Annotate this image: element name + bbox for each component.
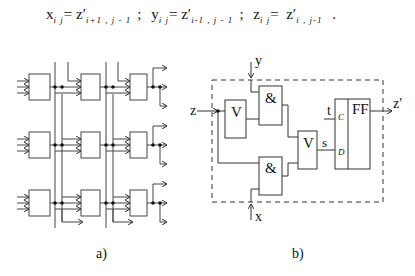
input-z-label: z — [190, 103, 196, 118]
input-y-label: y — [255, 53, 262, 68]
cell-logic — [197, 62, 392, 220]
input-x-label: x — [255, 209, 262, 224]
diagrams: z y x t z′ V & V & FF C D s — [0, 0, 415, 276]
or-gate-2-label: V — [303, 135, 314, 151]
right-outputs — [147, 68, 167, 222]
cell-array-grid — [17, 62, 167, 228]
flip-flop-label: FF — [352, 101, 369, 117]
caption-b: b) — [292, 246, 304, 262]
signal-s-label: s — [322, 135, 327, 150]
data-pin-label: D — [337, 147, 345, 157]
output-z-prime-label: z′ — [393, 96, 402, 111]
and-gate-2-label: & — [265, 160, 277, 176]
left-inputs — [17, 81, 29, 209]
caption-a: a) — [96, 246, 107, 262]
clock-pin-label: C — [338, 112, 345, 122]
and-gate-1-label: & — [265, 90, 277, 106]
or-gate-1-label: V — [231, 104, 242, 120]
input-t-label: t — [327, 103, 331, 118]
